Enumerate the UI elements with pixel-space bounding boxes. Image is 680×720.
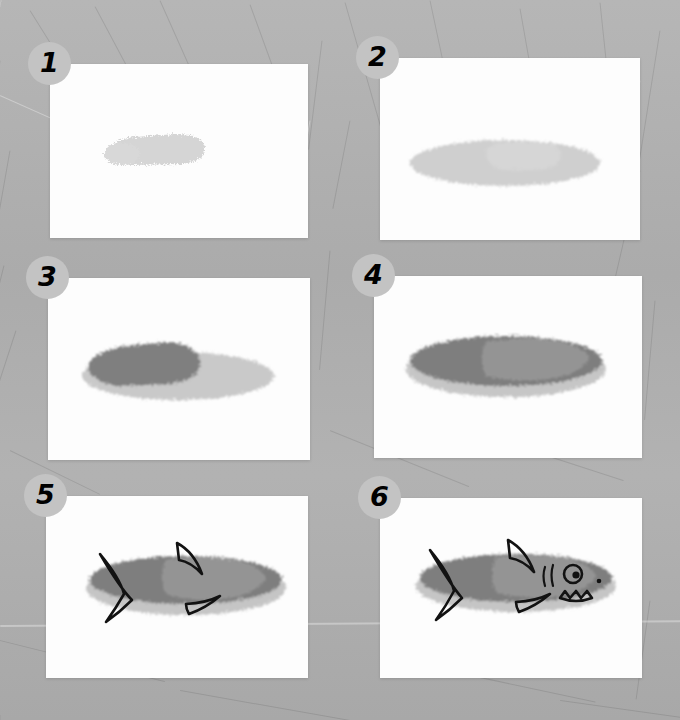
tutorial-canvas: 1 2 (0, 0, 680, 720)
step-badge-3-label: 3 (38, 263, 57, 290)
step-badge-5: 5 (24, 474, 67, 517)
step-badge-6-label: 6 (370, 483, 389, 510)
step-badge-1: 1 (28, 42, 71, 85)
step-badge-3: 3 (26, 256, 69, 299)
step-panel-4 (374, 276, 642, 458)
eye-pupil (572, 571, 579, 578)
step-panel-3 (48, 278, 310, 460)
nostril (597, 579, 602, 584)
step-panel-2 (380, 58, 640, 240)
step-badge-1-label: 1 (40, 49, 59, 76)
step-badge-4: 4 (352, 254, 395, 297)
step-badge-5-label: 5 (36, 481, 55, 508)
step-badge-4-label: 4 (364, 261, 383, 288)
step-4-drawing (374, 276, 642, 458)
step-2-drawing (380, 58, 640, 240)
step-badge-2: 2 (356, 36, 399, 79)
head-blob (486, 142, 561, 170)
dark-front (88, 342, 200, 386)
step-panel-5 (46, 496, 308, 678)
step-badge-2-label: 2 (368, 43, 387, 70)
step-6-drawing (380, 498, 642, 678)
head-blob (104, 134, 205, 165)
step-1-drawing (50, 64, 308, 238)
step-3-drawing (48, 278, 310, 460)
step-panel-6 (380, 498, 642, 678)
step-badge-6: 6 (358, 476, 401, 519)
step-panel-1 (50, 64, 308, 238)
step-5-drawing (46, 496, 308, 678)
